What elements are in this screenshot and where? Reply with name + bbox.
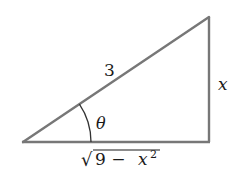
radicand-variable: x [138, 149, 148, 169]
hypotenuse-side [23, 17, 209, 142]
hypotenuse-label: 3 [104, 60, 115, 80]
opposite-label: x [218, 74, 228, 94]
radicand-base: 9 − [95, 149, 125, 169]
radical-sign: √ [81, 149, 93, 170]
radicand-exponent: 2 [150, 148, 157, 161]
triangle-diagram: 3 x θ √ 9 − x 2 [0, 0, 236, 172]
adjacent-label: √ 9 − x 2 [81, 148, 160, 170]
angle-arc [79, 104, 91, 142]
angle-label: θ [96, 114, 106, 133]
